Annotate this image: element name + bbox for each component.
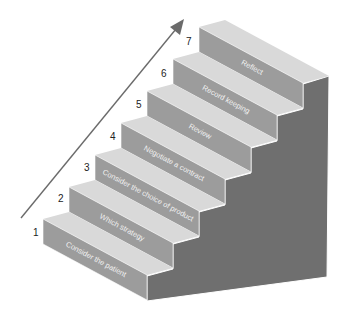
- step-number: 6: [161, 68, 167, 79]
- step-number: 3: [84, 162, 90, 173]
- step-number: 4: [110, 131, 116, 142]
- step-number: 5: [136, 99, 142, 110]
- step-number: 1: [33, 227, 39, 238]
- staircase-diagram: ReflectRecord keepingReviewNegotiate a c…: [0, 0, 344, 315]
- step-number: 7: [186, 36, 192, 47]
- step-number: 2: [58, 193, 64, 204]
